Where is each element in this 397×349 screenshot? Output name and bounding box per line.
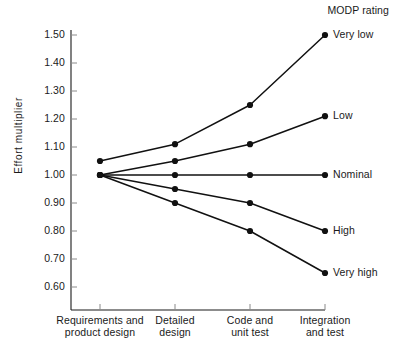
x-axis-tick-label: Integrationand test (275, 315, 375, 338)
y-axis-tick-label: 1.40 (31, 56, 65, 68)
data-point-marker (172, 172, 178, 178)
data-point-marker (247, 172, 253, 178)
data-point-marker (97, 158, 103, 164)
series-line (100, 175, 325, 231)
data-point-marker (322, 113, 328, 119)
x-axis-ticks (100, 304, 325, 310)
x-axis-tick-label-line: and test (275, 327, 375, 339)
data-point-marker (247, 141, 253, 147)
data-point-marker (247, 200, 253, 206)
series-line (100, 35, 325, 161)
data-point-marker (172, 158, 178, 164)
data-point-marker (322, 270, 328, 276)
series-label-very-low: Very low (333, 28, 373, 40)
y-axis-tick-label: 1.00 (31, 168, 65, 180)
series-line (100, 175, 325, 273)
data-point-marker (97, 172, 103, 178)
y-axis-tick-label: 0.70 (31, 252, 65, 264)
series-label-high: High (333, 224, 355, 236)
chart-figure: MODP rating Effort multiplier 0.600.700.… (0, 0, 397, 349)
y-axis-tick-label: 1.20 (31, 112, 65, 124)
y-axis-tick-label: 0.90 (31, 196, 65, 208)
y-axis-tick-label: 1.30 (31, 84, 65, 96)
y-axis-ticks (71, 35, 77, 287)
data-point-marker (172, 141, 178, 147)
data-point-marker (247, 228, 253, 234)
x-axis-tick-label-line: Integration (275, 315, 375, 327)
data-point-marker (247, 102, 253, 108)
y-axis-tick-label: 1.50 (31, 28, 65, 40)
data-point-marker (172, 186, 178, 192)
y-axis-tick-label: 0.80 (31, 224, 65, 236)
y-axis-tick-label: 1.10 (31, 140, 65, 152)
series-label-low: Low (333, 109, 353, 121)
data-point-marker (172, 200, 178, 206)
data-point-marker (322, 228, 328, 234)
data-point-marker (322, 172, 328, 178)
axis-lines (71, 30, 325, 310)
y-axis-tick-label: 0.60 (31, 280, 65, 292)
series-lines (100, 35, 325, 273)
data-point-marker (322, 32, 328, 38)
series-label-very-high: Very high (333, 266, 378, 278)
series-label-nominal: Nominal (333, 168, 372, 180)
